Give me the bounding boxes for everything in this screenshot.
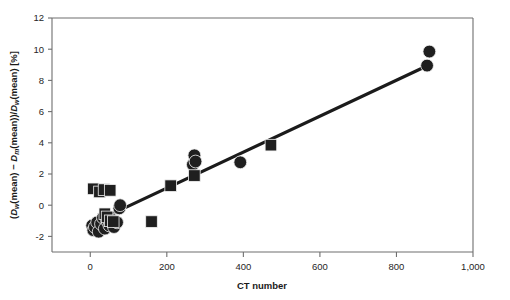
x-tick-label: 600 — [312, 261, 328, 272]
x-tick-label: 800 — [389, 261, 405, 272]
y-tick-label: -2 — [36, 231, 44, 242]
data-point-circle — [114, 199, 127, 212]
y-tick-label: 4 — [39, 137, 44, 148]
data-point-circle — [421, 59, 434, 72]
data-point-square — [165, 180, 177, 192]
data-point-square — [146, 216, 158, 228]
data-point-circle — [189, 155, 202, 168]
data-point-square — [107, 216, 119, 228]
scatter-plot: 02004006008001,000 -2024681012 CT number… — [0, 0, 510, 300]
y-tick-label: 2 — [39, 168, 44, 179]
data-point-square — [104, 185, 116, 197]
svg-text:(Dw(mean) − Dm(mean))/Dw(mean): (Dw(mean) − Dm(mean))/Dw(mean) [%] — [8, 51, 20, 219]
x-tick-label: 200 — [159, 261, 175, 272]
data-point-square — [189, 170, 201, 182]
data-point-circle — [423, 45, 436, 58]
x-axis-title: CT number — [237, 280, 287, 291]
plot-background — [0, 0, 510, 300]
data-point-square — [265, 139, 277, 151]
chart-figure: 02004006008001,000 -2024681012 CT number… — [0, 0, 510, 300]
y-tick-label: 10 — [33, 44, 44, 55]
x-tick-label: 1,000 — [461, 261, 485, 272]
y-tick-label: 0 — [39, 200, 44, 211]
y-tick-label: 12 — [33, 12, 44, 23]
y-tick-label: 6 — [39, 106, 44, 117]
y-axis-title: (Dw(mean) − Dm(mean))/Dw(mean) [%] — [8, 51, 20, 219]
y-tick-label: 8 — [39, 75, 44, 86]
x-tick-label: 0 — [88, 261, 93, 272]
x-tick-label: 400 — [235, 261, 251, 272]
data-point-circle — [234, 156, 247, 169]
